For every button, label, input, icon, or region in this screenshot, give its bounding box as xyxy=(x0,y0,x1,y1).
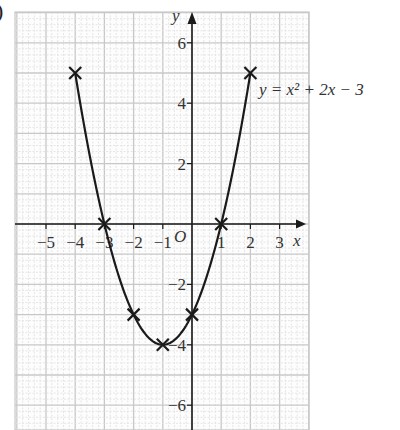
graph: −5−4−3−2−1123642−2−4−6 x y O y = x² + 2x… xyxy=(0,0,400,430)
y-tick-label: 2 xyxy=(178,155,187,174)
x-tick-label: −2 xyxy=(125,233,143,252)
x-tick-label: −5 xyxy=(37,233,55,252)
y-tick-label: −2 xyxy=(168,275,186,294)
y-tick-label: 4 xyxy=(178,94,187,113)
x-tick-label: 3 xyxy=(275,233,284,252)
y-tick-label: −6 xyxy=(168,396,186,415)
y-axis-label: y xyxy=(170,6,180,25)
y-tick-label: 6 xyxy=(178,34,187,53)
equation-label: y = x² + 2x − 3 xyxy=(257,80,364,99)
x-tick-label: 2 xyxy=(246,233,255,252)
graph-paper-grid xyxy=(15,12,309,430)
x-axis-label: x xyxy=(292,231,301,250)
origin-label: O xyxy=(174,227,186,246)
x-tick-label: −1 xyxy=(154,233,172,252)
x-tick-label: −4 xyxy=(66,233,85,252)
